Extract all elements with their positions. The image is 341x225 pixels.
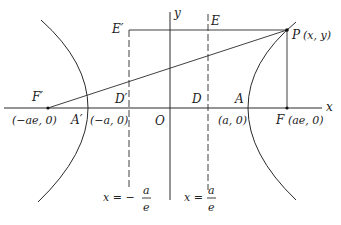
label-y-axis: y (173, 6, 181, 20)
label-x-axis: x (326, 100, 333, 114)
point-f (285, 106, 288, 109)
svg-text:e: e (208, 201, 215, 214)
label-p: P (291, 28, 301, 42)
svg-text:a: a (143, 184, 150, 197)
svg-text:a: a (208, 184, 215, 197)
svg-text:x = −: x = − (103, 191, 135, 204)
label-a-prime: A′ (70, 113, 83, 127)
point-p (285, 28, 289, 32)
label-a-prime-coord: (−a, 0) (90, 114, 128, 127)
label-a-coord: (a, 0) (218, 114, 247, 127)
directrix-left-equation: x = − a e (103, 184, 151, 214)
label-d-prime: D′ (114, 92, 128, 106)
label-f-prime: F′ (31, 90, 43, 104)
label-f-coord: (ae, 0) (288, 114, 324, 127)
label-a: A (234, 92, 244, 106)
label-f: F (275, 113, 285, 127)
hyperbola-left-branch (38, 20, 88, 202)
svg-text:x =: x = (184, 191, 203, 204)
label-e: E (210, 14, 220, 28)
hyperbola-right-branch (248, 22, 296, 200)
label-origin: O (155, 114, 165, 128)
point-fprime (46, 106, 49, 109)
label-p-coord: (x, y) (303, 29, 331, 42)
svg-text:e: e (143, 201, 150, 214)
directrix-right-equation: x = a e (184, 184, 216, 214)
label-f-prime-coord: (−ae, 0) (12, 114, 57, 127)
label-d: D (191, 92, 202, 106)
hyperbola-diagram: y x O E′ E P (x, y) F′ (−ae, 0) A′ (−a, … (0, 0, 341, 225)
label-e-prime: E′ (111, 22, 124, 36)
line-fprime-p (48, 30, 287, 108)
